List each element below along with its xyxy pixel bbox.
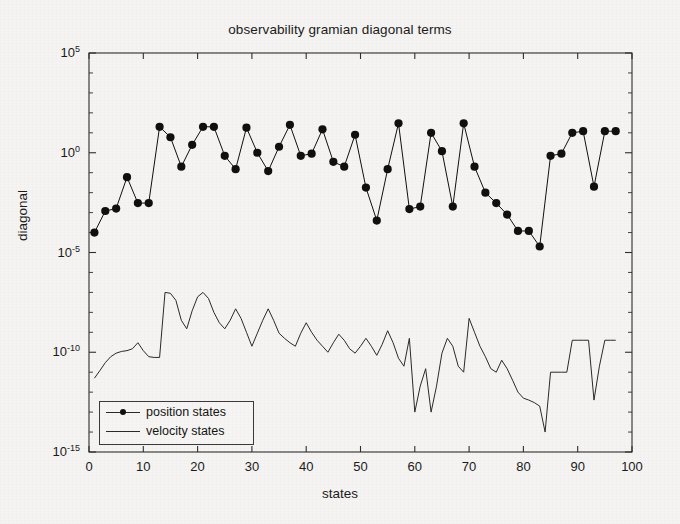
y-tick-label: 100: [61, 144, 80, 160]
legend-item-position-states: position states: [100, 402, 253, 421]
x-tick-label: 90: [553, 459, 603, 474]
x-tick-label: 30: [227, 459, 277, 474]
x-tick-label: 20: [173, 459, 223, 474]
legend-label-position-states: position states: [146, 405, 226, 419]
series-position-states-markers: [90, 119, 619, 250]
y-axis-ticks: [89, 53, 632, 452]
x-tick-label: 80: [498, 459, 548, 474]
x-tick-label: 70: [444, 459, 494, 474]
figure-canvas: observability gramian diagonal terms dia…: [0, 0, 680, 524]
y-tick-label: 10-15: [53, 443, 80, 459]
x-tick-label: 100: [607, 459, 657, 474]
legend-item-velocity-states: velocity states: [100, 421, 253, 440]
plot-area: [0, 0, 680, 524]
y-tick-label: 10-10: [53, 343, 80, 359]
legend-label-velocity-states: velocity states: [146, 424, 225, 438]
x-tick-label: 50: [336, 459, 386, 474]
line-with-dot-marker-icon: [106, 406, 140, 418]
plain-line-icon: [106, 425, 140, 437]
series-position-states-line: [94, 123, 615, 246]
y-tick-label: 105: [61, 44, 80, 60]
x-tick-label: 40: [281, 459, 331, 474]
x-tick-label: 10: [118, 459, 168, 474]
x-tick-label: 60: [390, 459, 440, 474]
x-tick-label: 0: [64, 459, 114, 474]
axes-frame: [89, 53, 632, 452]
x-axis-ticks: [89, 53, 632, 452]
legend: position states velocity states: [99, 401, 254, 445]
y-tick-label: 10-5: [58, 244, 80, 260]
